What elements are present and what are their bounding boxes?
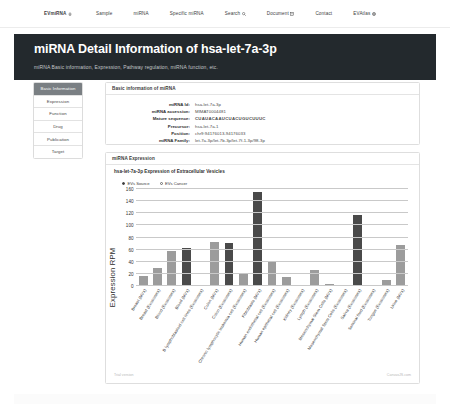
sidebar-item-publication[interactable]: Publication <box>34 133 82 146</box>
expression-panel-header: miRNA Expression <box>106 153 419 165</box>
basic-info-row: miRNA Family:let-7a-3p/let-7b-3p/let-7f-… <box>106 137 419 144</box>
chart-gridline: 120 <box>136 212 408 213</box>
basic-info-key: miRNA Family: <box>106 137 195 144</box>
nav-item-label: Specific miRNA <box>170 11 204 16</box>
chart-bar-slot <box>279 189 293 286</box>
chart-bar[interactable] <box>167 251 176 286</box>
chart-y-axis-label: Expression RPM <box>108 248 117 307</box>
section-sidebar: Basic InformationExpressionFunctionDrugP… <box>33 82 83 159</box>
sidebar-item-label: Basic Information <box>41 86 76 91</box>
sidebar-item-basic-information[interactable]: Basic Information <box>34 83 82 96</box>
chart-gridline: 80 <box>136 237 408 238</box>
basic-info-row: Position:chr9:94176013-94176033 <box>106 130 419 137</box>
chart-bar-slot <box>251 189 265 286</box>
chart-bar[interactable] <box>396 245 405 286</box>
nav-item-contact[interactable]: Contact <box>315 11 332 16</box>
basic-info-row: miRNA Id:hsa-let-7a-3p <box>106 101 419 108</box>
chart-x-label-slot: Breast (Exosomes) <box>150 287 164 375</box>
expression-panel: miRNA Expression hsa-let-7a-3p Expressio… <box>105 152 420 384</box>
basic-info-row: miRNA accession:MIMAT0004481 <box>106 108 419 115</box>
radio-indicator[interactable] <box>160 182 163 185</box>
chart-watermark-right: CanvasJS.com <box>387 373 411 377</box>
chart-bar-slot <box>293 189 307 286</box>
chart-bar[interactable] <box>353 215 362 286</box>
chart-bar-slot <box>308 189 322 286</box>
chart-bar-slot <box>379 189 393 286</box>
chart-x-axis-labels: Breast (MVs)Breast (Exosomes)Blood (Exos… <box>136 287 408 375</box>
chart-title: hsa-let-7a-3p Expression of Extracellula… <box>114 169 225 174</box>
chart-bar[interactable] <box>182 248 191 286</box>
sidebar-item-drug[interactable]: Drug <box>34 121 82 134</box>
basic-info-key: miRNA Id: <box>106 101 195 108</box>
chart-x-label-slot: Urine (MVs) <box>394 287 408 375</box>
radio-indicator[interactable] <box>122 182 125 185</box>
chart-gridline: 40 <box>136 261 408 262</box>
sidebar-item-label: Target <box>52 149 65 154</box>
search-icon <box>242 12 246 16</box>
basic-info-key: Precursor: <box>106 123 195 130</box>
nav-item-label: EVmiRNA <box>44 11 67 16</box>
chart-y-tick-label: 140 <box>126 199 136 204</box>
basic-info-value: hsa-let-7a-3p <box>195 101 221 108</box>
chart-bar[interactable] <box>153 268 162 286</box>
sidebar-item-target[interactable]: Target <box>34 146 82 158</box>
chart-bar-slot <box>351 189 365 286</box>
basic-info-value: let-7a-3p/let-7b-3p/let-7f-1-3p/98-3p <box>195 137 265 144</box>
chart-gridline: 160 <box>136 188 408 189</box>
nav-item-document[interactable]: Document <box>267 11 295 16</box>
chart-y-tick-label: 80 <box>128 235 136 240</box>
chart-gridline: 60 <box>136 249 408 250</box>
nav-item-specific-mirna[interactable]: Specific miRNA <box>170 11 204 16</box>
basic-info-value: CUAUACAAUCUACUGUCUUUC <box>195 115 266 122</box>
nav-item-search[interactable]: Search <box>225 11 246 16</box>
chart-y-tick-label: 40 <box>128 259 136 264</box>
nav-item-label: Sample <box>96 11 112 16</box>
nav-item-evmirna[interactable]: EVmiRNA <box>44 11 72 16</box>
radio-evs-source[interactable]: EVs Source <box>122 181 150 186</box>
page-root: EVmiRNASamplemiRNASpecific miRNASearchDo… <box>0 0 450 408</box>
basic-information-panel: Basic information of miRNA miRNA Id:hsa-… <box>105 82 420 145</box>
chart-watermark-left: Trial version <box>114 373 133 377</box>
chart-bar-slot <box>336 189 350 286</box>
chart-bars-canvas: 020406080100120140160 <box>136 189 408 286</box>
chart-bar-slot <box>165 189 179 286</box>
sidebar-item-function[interactable]: Function <box>34 108 82 121</box>
chart-bar-slot <box>150 189 164 286</box>
radio-evs-cancer[interactable]: EVs Cancer <box>160 181 188 186</box>
chart-bar-slot <box>222 189 236 286</box>
chart-plot-area: Expression RPM 020406080100120140160 Bre… <box>114 189 414 375</box>
nav-item-label: EVAtlas <box>353 11 370 16</box>
radio-label: EVs Cancer <box>165 181 187 186</box>
chart-bar-slot <box>179 189 193 286</box>
chart-gridline: 0 <box>136 285 408 286</box>
chart-bar[interactable] <box>239 273 248 286</box>
basic-info-value: chr9:94176013-94176033 <box>195 130 245 137</box>
radio-label: EVs Source <box>127 181 149 186</box>
basic-info-key: miRNA accession: <box>106 108 195 115</box>
sidebar-item-label: Expression <box>47 99 69 104</box>
chart-bar-slot <box>394 189 408 286</box>
nav-item-mirna[interactable]: miRNA <box>133 11 148 16</box>
nav-item-evatlas[interactable]: EVAtlas <box>353 11 376 16</box>
chart-y-tick-label: 120 <box>126 211 136 216</box>
chart-bar-slot <box>322 189 336 286</box>
nav-item-sample[interactable]: Sample <box>96 11 112 16</box>
chart-bar-slot <box>265 189 279 286</box>
basic-info-key: Position: <box>106 130 195 137</box>
chart-mode-radio-group: EVs SourceEVs Cancer <box>122 181 187 186</box>
basic-info-key: Mature sequence: <box>106 115 195 122</box>
sidebar-item-label: Publication <box>47 137 69 142</box>
basic-info-row: Mature sequence:CUAUACAAUCUACUGUCUUUC <box>106 115 419 122</box>
chart-y-tick-label: 160 <box>126 187 136 192</box>
chart-bar-slot <box>236 189 250 286</box>
chart-bar-slot <box>193 189 207 286</box>
nav-item-label: Document <box>267 11 289 16</box>
sidebar-item-expression[interactable]: Expression <box>34 96 82 109</box>
chart-gridline: 100 <box>136 224 408 225</box>
chart-x-label-slot: Mesenchymal Stem Cells (Exosomes) <box>336 287 350 375</box>
basic-info-value: hsa-let-7a-1 <box>195 123 219 130</box>
nav-item-label: Search <box>225 11 240 16</box>
page-title: miRNA Detail Information of hsa-let-7a-3… <box>34 42 436 57</box>
chart-bar-slot <box>365 189 379 286</box>
basic-info-list: miRNA Id:hsa-let-7a-3pmiRNA accession:MI… <box>106 95 419 144</box>
